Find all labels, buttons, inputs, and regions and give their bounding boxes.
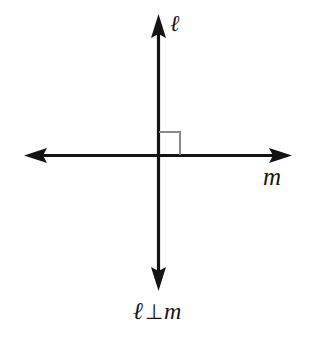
- right-angle-icon: [159, 132, 180, 155]
- label-line-l: ℓ: [170, 12, 180, 35]
- perpendicular-symbol-icon: ⊥: [144, 300, 165, 324]
- caption-left-operand: ℓ: [133, 298, 144, 324]
- line-l-group: [151, 14, 166, 291]
- label-line-m: m: [263, 164, 281, 189]
- diagram-canvas: ℓ m ℓ⊥m: [0, 0, 315, 351]
- caption-right-operand: m: [164, 298, 182, 324]
- caption-perpendicular: ℓ⊥m: [0, 299, 315, 323]
